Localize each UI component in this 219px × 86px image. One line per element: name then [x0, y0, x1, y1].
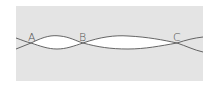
label-c: C [173, 32, 181, 43]
label-a: A [28, 32, 36, 43]
lens-b-c [83, 36, 177, 49]
label-b: B [79, 32, 86, 43]
lens-a-b [31, 36, 83, 49]
